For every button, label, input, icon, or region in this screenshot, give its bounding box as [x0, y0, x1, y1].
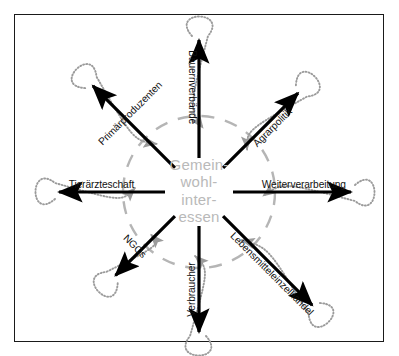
spoke-label-bauernverbaende: Bauernverbände: [187, 50, 198, 124]
spoke-label-verbraucher: Verbraucher: [186, 262, 197, 317]
spoke-arrow-ngos: [116, 216, 175, 275]
center-title-line-4: essen: [178, 208, 219, 225]
spoke-label-tieraerzteschaft: Tierärzteschaft: [69, 179, 135, 190]
diagram-scene: BauernverbändeAgrarpolitikWeiterverarbei…: [0, 0, 399, 356]
spoke-label-lebensmitteleinzelhandel: Lebensmitteleinzelhandel: [228, 230, 315, 317]
center-title: Gemein-wohl-inter-essen: [170, 156, 229, 226]
center-title-line-3: inter-: [181, 191, 216, 208]
center-title-line-2: wohl-: [180, 173, 218, 190]
spoke-arrow-primaerproduzenten: [93, 86, 175, 168]
diagram-canvas: BauernverbändeAgrarpolitikWeiterverarbei…: [0, 0, 399, 356]
spoke-label-primaerproduzenten: Primärproduzenten: [96, 79, 164, 147]
center-title-line-1: Gemein-: [170, 156, 229, 173]
spoke-label-weiterverarbeitung: Weiterverarbeitung: [262, 179, 347, 190]
spoke-label-agrarpolitik: Agrarpolitik: [251, 105, 295, 149]
